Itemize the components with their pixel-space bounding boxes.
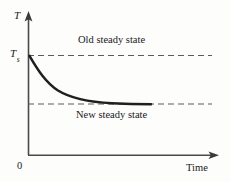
initial-temperature-symbol: T	[10, 47, 16, 59]
initial-temperature-subscript: s	[17, 55, 20, 64]
y-axis	[25, 11, 33, 155]
initial-temperature-tick-label: Ts	[10, 48, 19, 62]
temperature-response-figure: T Time 0 Ts Old steady state New steady …	[0, 0, 230, 182]
origin-label: 0	[17, 161, 22, 172]
new-steady-state-annotation: New steady state	[76, 110, 147, 121]
x-axis	[28, 151, 219, 159]
old-steady-state-annotation: Old steady state	[78, 35, 145, 46]
plot-canvas	[0, 0, 230, 182]
x-axis-label: Time	[186, 163, 208, 174]
temperature-response-curve	[30, 56, 152, 104]
y-axis-label: T	[14, 10, 20, 21]
